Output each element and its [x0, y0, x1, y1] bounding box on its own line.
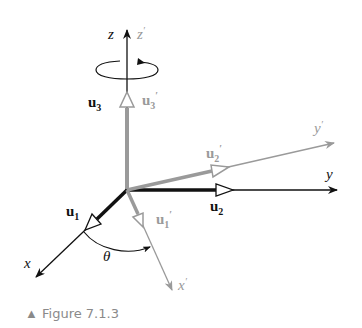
u1-vector: [97, 190, 127, 219]
u1-label: u1: [66, 203, 79, 222]
y-label: y: [324, 166, 333, 182]
u2-prime-arrowhead: [211, 165, 229, 177]
rotation-diagram: z z′ u3 u3′ u2′ y′ y u2 u1 u1′ x θ x′ ▲ …: [0, 0, 362, 328]
u3-label: u3: [88, 94, 101, 113]
u2-prime-vector: [127, 171, 212, 190]
u2-label: u2: [210, 198, 223, 217]
u3-prime-label: u3′: [142, 90, 158, 111]
theta-label: θ: [103, 248, 111, 264]
x-prime-label: x′: [177, 276, 188, 293]
y-prime-label: y′: [312, 119, 324, 136]
u2-arrowhead: [216, 184, 233, 196]
z-label: z: [107, 26, 114, 42]
u1-prime-arrowhead: [133, 213, 143, 227]
caption-marker-icon: ▲: [25, 306, 38, 321]
u1-prime-vector: [127, 190, 138, 214]
x-label: x: [23, 255, 31, 271]
u1-prime-label: u1′: [156, 209, 172, 230]
u3-arrowhead: [120, 92, 134, 107]
theta-arc: [84, 232, 150, 251]
figure-caption: Figure 7.1.3: [42, 306, 119, 321]
u2-prime-label: u2′: [206, 143, 222, 164]
z-prime-label: z′: [136, 25, 146, 42]
